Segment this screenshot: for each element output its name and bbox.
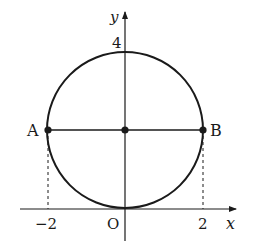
x-axis-label: x: [226, 214, 235, 233]
label-a: A: [26, 121, 39, 140]
point-b: [199, 126, 206, 133]
y-tick-4: 4: [112, 34, 122, 52]
coordinate-diagram: y 4 A B −2 O 2 x: [0, 0, 258, 249]
diagram-canvas: y 4 A B −2 O 2 x: [0, 0, 258, 249]
point-a: [44, 126, 51, 133]
y-axis-label: y: [109, 8, 119, 26]
x-tick-2: 2: [198, 215, 208, 233]
label-b: B: [210, 121, 222, 140]
point-center: [121, 126, 128, 133]
x-tick-neg2: −2: [35, 215, 57, 233]
origin-label: O: [107, 215, 119, 233]
